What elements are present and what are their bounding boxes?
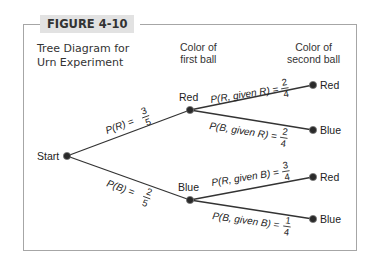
node-label-blue-red: Red — [320, 171, 339, 183]
label-p-red-given-red: P(R, given R) = 2 4 — [209, 76, 291, 111]
svg-text:4: 4 — [283, 226, 290, 238]
svg-text:2: 2 — [281, 76, 288, 88]
node-label-blue-blue: Blue — [320, 213, 341, 225]
node-red-red — [309, 81, 316, 88]
svg-text:4: 4 — [280, 137, 287, 149]
node-start — [63, 152, 70, 159]
node-label-red-blue: Blue — [320, 124, 341, 136]
svg-text:2: 2 — [145, 186, 154, 198]
node-blue-red — [309, 173, 316, 180]
svg-text:4: 4 — [284, 171, 291, 183]
svg-text:P(B) =: P(B) = — [105, 178, 136, 198]
svg-text:3: 3 — [139, 104, 148, 116]
svg-text:1: 1 — [285, 214, 292, 226]
svg-text:P(B, given R) =: P(B, given R) = — [209, 120, 278, 142]
node-label-start: Start — [37, 150, 59, 162]
node-label-red-red: Red — [320, 79, 339, 91]
svg-text:5: 5 — [141, 197, 150, 209]
node-first-blue — [186, 196, 193, 203]
node-red-blue — [309, 126, 316, 133]
svg-text:P(R, given R) =: P(R, given R) = — [210, 83, 280, 105]
svg-text:2: 2 — [282, 126, 289, 138]
node-label-first-red: Red — [179, 91, 198, 103]
label-p-red: P(R) = 3 5 — [102, 104, 153, 141]
svg-text:3: 3 — [282, 159, 289, 171]
node-blue-blue — [309, 215, 316, 222]
svg-text:P(B, given B) =: P(B, given B) = — [212, 210, 281, 230]
svg-text:5: 5 — [144, 116, 153, 128]
node-label-first-blue: Blue — [178, 181, 199, 193]
node-first-red — [186, 106, 193, 113]
